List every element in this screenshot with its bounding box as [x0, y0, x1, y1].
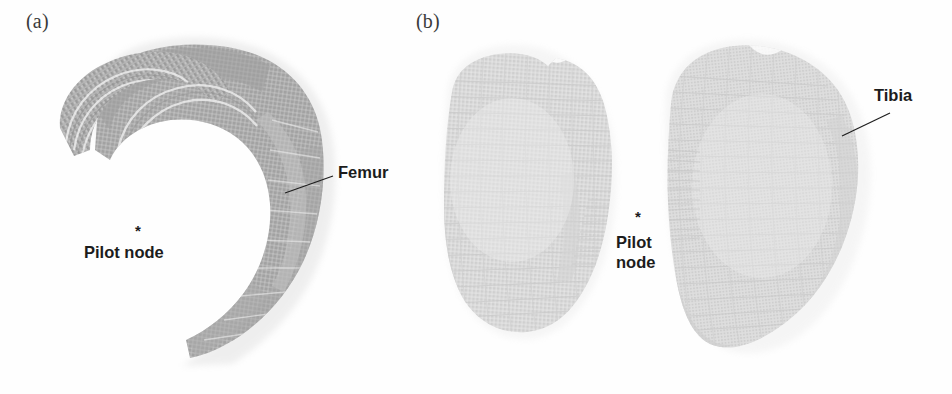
pilot-node-label-line-1: Pilot — [616, 233, 652, 251]
pilot-node-label: Pilot node — [84, 243, 164, 261]
pilot-node-label-line-2: node — [616, 253, 655, 271]
panel-b-label: (b) — [416, 10, 440, 33]
pilot-node-asterisk: * — [635, 208, 641, 225]
femur-label: Femur — [338, 163, 388, 181]
tibia-label: Tibia — [874, 86, 912, 104]
panel-a-label: (a) — [26, 10, 49, 33]
figure-canvas: (a) Femur * Pilot node (b) Tibia * Pilot… — [0, 0, 952, 394]
panel-a: (a) Femur * Pilot node — [0, 0, 476, 394]
panel-b: (b) Tibia * Pilot node — [476, 0, 952, 394]
pilot-node-asterisk: * — [135, 222, 141, 239]
